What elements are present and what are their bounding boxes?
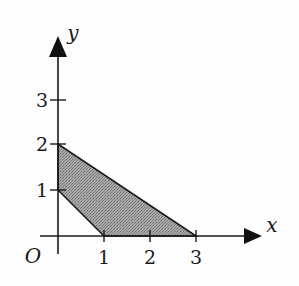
x-axis-label: x xyxy=(266,213,277,237)
y-axis-arrow-icon xyxy=(49,36,67,57)
origin-label: O xyxy=(25,244,41,268)
coordinate-diagram: 1 2 3 1 2 3 O x y xyxy=(0,0,299,286)
x-axis-arrow-icon xyxy=(244,228,262,244)
y-tick-label-3: 3 xyxy=(36,89,48,111)
diagram-svg: 1 2 3 1 2 3 O x y xyxy=(0,0,299,286)
x-tick-label-3: 3 xyxy=(190,246,202,268)
y-tick-label-1: 1 xyxy=(36,179,48,201)
shaded-region xyxy=(58,144,196,236)
y-axis-label: y xyxy=(66,21,79,45)
y-tick-label-2: 2 xyxy=(36,133,48,155)
x-tick-label-1: 1 xyxy=(98,246,110,268)
x-tick-label-2: 2 xyxy=(144,246,156,268)
